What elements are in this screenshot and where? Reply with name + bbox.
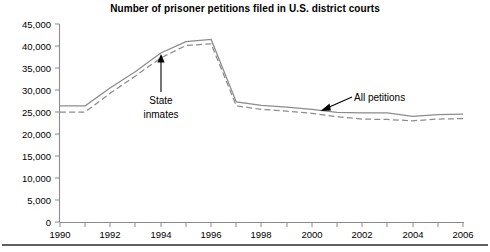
- x-tick-label-1996: 1996: [200, 229, 221, 240]
- y-tick-label-10000: 10,000: [22, 173, 51, 184]
- series-line-all-petitions: [60, 39, 463, 116]
- chart-plot: 45,000 40,000 35,000 30,000 25,000 20,00…: [0, 0, 490, 252]
- y-tick-label-20000: 20,000: [22, 129, 51, 140]
- annotation-label-all-petitions: All petitions: [354, 92, 405, 103]
- x-tick-label-2002: 2002: [351, 229, 372, 240]
- y-tick-label-15000: 15,000: [22, 151, 51, 162]
- y-tick-label-25000: 25,000: [22, 107, 51, 118]
- x-tick-marks: [60, 223, 463, 228]
- y-tick-label-5000: 5,000: [27, 195, 51, 206]
- x-tick-label-1998: 1998: [250, 229, 271, 240]
- arrow-head-down-left-icon: [321, 104, 331, 111]
- y-tick-label-40000: 40,000: [22, 41, 51, 52]
- y-tick-label-35000: 35,000: [22, 63, 51, 74]
- y-axis-group: 45,000 40,000 35,000 30,000 25,000 20,00…: [22, 19, 60, 228]
- y-tick-label-45000: 45,000: [22, 19, 51, 30]
- x-tick-label-2006: 2006: [452, 229, 473, 240]
- x-tick-label-1994: 1994: [150, 229, 171, 240]
- x-axis-group: 1990 1992 1994 1996 1998 2000 2002 2004 …: [49, 223, 473, 241]
- y-tick-label-0: 0: [46, 217, 51, 228]
- x-tick-label-2004: 2004: [402, 229, 423, 240]
- annotation-state-inmates: State inmates: [143, 54, 178, 120]
- x-tick-label-2000: 2000: [301, 229, 322, 240]
- y-tick-label-30000: 30,000: [22, 85, 51, 96]
- annotation-label-state: State: [149, 95, 173, 106]
- annotation-label-inmates: inmates: [143, 109, 178, 120]
- y-tick-marks: [55, 24, 60, 222]
- series-line-state-inmates: [60, 44, 463, 121]
- annotation-all-petitions: All petitions: [321, 92, 406, 111]
- x-tick-label-1990: 1990: [49, 229, 70, 240]
- chart-container: Number of prisoner petitions filed in U.…: [0, 0, 490, 252]
- x-tick-label-1992: 1992: [99, 229, 120, 240]
